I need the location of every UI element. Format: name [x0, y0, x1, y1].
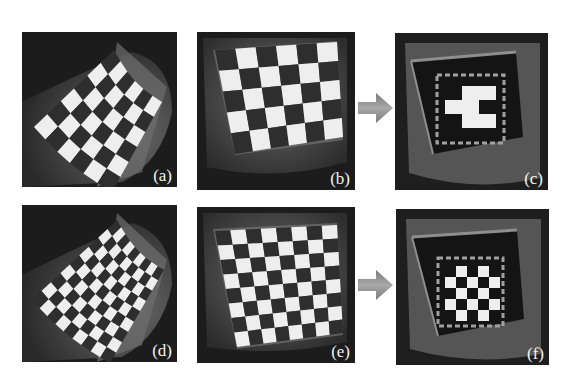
- curved-checkerboard-image: [22, 205, 177, 362]
- panel-c: (c): [395, 33, 548, 190]
- target-region-image: [396, 209, 549, 365]
- panel-b: (b): [197, 32, 355, 190]
- panel-label-f: (f): [527, 345, 544, 362]
- rectified-checkerboard-image: [197, 32, 355, 190]
- arrow-right-icon: [358, 93, 394, 123]
- panel-d: (d): [22, 205, 177, 362]
- target-region-image: [395, 33, 548, 190]
- panel-label-e: (e): [331, 343, 350, 360]
- panel-e: (e): [197, 207, 355, 363]
- panel-label-c: (c): [524, 170, 543, 187]
- panel-f: (f): [396, 209, 549, 365]
- panel-a: (a): [22, 32, 177, 187]
- arrow-right-icon: [358, 270, 394, 300]
- panel-label-b: (b): [330, 170, 350, 187]
- panel-label-d: (d): [152, 342, 172, 359]
- curved-checkerboard-image: [22, 32, 177, 187]
- rectified-checkerboard-image: [197, 207, 355, 363]
- panel-label-a: (a): [153, 167, 172, 184]
